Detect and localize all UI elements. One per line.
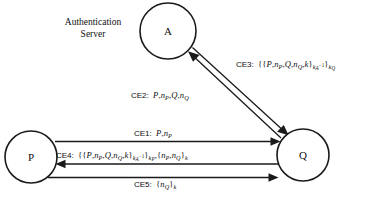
authentication-server-caption-line2: Server [65, 28, 121, 40]
node-a-label: A [164, 25, 172, 37]
edge-label-ce2-tag: CE2: [131, 91, 149, 100]
edge-label-ce5: CE5: {nQ}k [134, 179, 176, 189]
edge-label-ce1-tag: CE1: [134, 129, 152, 138]
authentication-server-caption-line1: Authentication [65, 17, 121, 29]
edge-label-ce3: CE3: {{P,nP,Q,nQ,k}kA−1}kQ [236, 59, 335, 69]
edge-label-ce1-body: P,nP [154, 128, 172, 138]
edge-label-ce3-body: {{P,nP,Q,nQ,k}kA−1}kQ [256, 59, 335, 69]
edge-label-ce4: CE4: {{P,nP,Q,nQ,k}kA−1}kP,{nP,nQ}k [56, 150, 188, 160]
edge-ce4 [56, 160, 287, 168]
protocol-diagram: A P Q Authentication Server CE3: {{P,nP,… [0, 0, 391, 199]
edge-label-ce4-body: {{P,nP,Q,nQ,k}kA−1}kP,{nP,nQ}k [76, 150, 188, 160]
edge-label-ce3-tag: CE3: [236, 60, 254, 69]
authentication-server-caption: Authentication Server [65, 17, 121, 40]
edge-label-ce4-tag: CE4: [56, 151, 74, 160]
edge-label-ce2-body: P,nP,Q,nQ [151, 90, 189, 100]
edge-label-ce2: CE2: P,nP,Q,nQ [131, 90, 189, 100]
edge-label-ce5-tag: CE5: [134, 180, 152, 189]
edge-label-ce5-body: {nQ}k [154, 179, 177, 189]
node-q-label: Q [299, 149, 307, 161]
diagram-canvas [0, 0, 391, 199]
edge-label-ce1: CE1: P,nP [134, 128, 172, 138]
node-p-label: P [28, 151, 34, 163]
